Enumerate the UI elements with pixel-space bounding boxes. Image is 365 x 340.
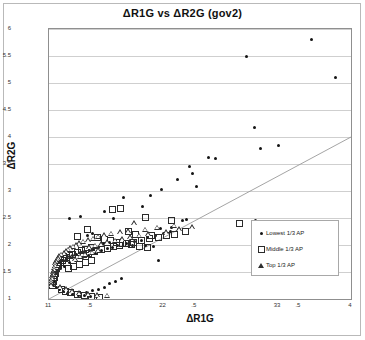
data-point [152,245,155,248]
data-point [86,244,92,249]
data-point [97,288,100,291]
data-point [88,257,95,264]
data-point [154,225,160,230]
data-point [112,217,115,220]
y-tick-label: 3.5 [0,160,11,166]
data-point [98,241,104,246]
legend-item-middle: Middle 1/3 AP [256,241,335,257]
legend-label-top: Top 1/3 AP [266,262,295,268]
legend-item-lowest: Lowest 1/3 AP [256,225,335,241]
data-point [277,144,280,147]
data-point [259,147,262,150]
data-point [191,172,194,175]
open-square-icon [256,246,266,253]
data-point [68,217,71,220]
data-point [90,236,96,241]
chart-title: ΔR1G vs ΔR2G (gov2) [0,7,365,19]
data-point [94,292,100,297]
data-point [130,239,137,246]
x-tick-label: .5 [77,302,103,308]
data-point [63,286,69,291]
data-point [79,215,82,218]
data-point [114,280,117,283]
data-point [120,277,123,280]
y-tick-label: 5.5 [0,52,11,58]
data-point [188,165,191,168]
y-tick-label: 4.5 [0,106,11,112]
data-point [108,231,114,236]
gridline [49,299,351,300]
legend-label-lowest: Lowest 1/3 AP [266,230,304,236]
y-tick-label: 6 [0,25,11,31]
data-point [117,229,123,234]
data-point [119,236,125,241]
data-point [142,214,149,221]
data-point [48,282,54,287]
data-point [84,226,91,233]
data-point [171,231,178,238]
x-tick-label: 4 [337,302,363,308]
x-tick-label: .5 [285,302,311,308]
data-point [155,234,162,241]
data-point [127,234,133,239]
data-point [136,233,142,238]
x-tick-label: .5 [181,302,207,308]
x-tick-label: 22 [150,302,176,308]
filled-circle-icon [256,232,266,235]
y-tick-label: 1.5 [0,268,11,274]
legend-label-middle: Middle 1/3 AP [266,246,303,252]
data-point [310,38,313,41]
data-point [95,234,101,239]
data-point [253,126,256,129]
data-point [189,224,195,229]
y-tick-label: 4 [0,133,11,139]
data-point [112,238,118,243]
data-point [207,156,210,159]
data-point [181,219,184,222]
data-point [122,196,125,199]
y-tick-label: 2.5 [0,214,11,220]
data-point [163,229,169,234]
y-tick-label: 1 [0,295,11,301]
data-point [76,290,82,295]
legend-box: Lowest 1/3 AP Middle 1/3 AP Top 1/3 AP [251,220,339,276]
data-point [195,185,198,188]
data-point [214,157,217,160]
data-point [104,293,110,298]
data-point [101,232,107,237]
data-point [138,237,145,244]
data-point [176,178,179,181]
data-point [108,282,111,285]
data-point [109,206,116,213]
data-point [123,240,130,247]
data-point [103,286,106,289]
x-tick-label: 11 [35,302,61,308]
data-point [145,231,151,236]
data-point [334,76,337,79]
legend-item-top: Top 1/3 AP [256,257,335,273]
data-point [95,247,101,252]
y-tick-label: 3 [0,187,11,193]
data-point [245,55,248,58]
data-point [157,259,160,262]
data-point [236,220,243,227]
scatter-plot-figure: ΔR1G vs ΔR2G (gov2) ΔR2G 11.522.533.544.… [0,0,365,340]
data-point [82,252,88,257]
x-axis-title: ΔR1G [48,313,352,324]
data-point [144,244,151,251]
triangle-icon [256,263,266,268]
data-point [103,210,106,213]
data-point [176,226,182,231]
data-point [104,239,110,244]
data-point [89,250,95,255]
data-point [182,228,189,235]
data-point [69,288,75,293]
data-point [131,220,137,225]
data-point [85,291,91,296]
data-point [149,194,152,197]
y-tick-label: 2 [0,241,11,247]
data-point [141,205,144,208]
data-point [125,228,131,233]
y-tick-label: 5 [0,79,11,85]
data-point [146,235,153,242]
